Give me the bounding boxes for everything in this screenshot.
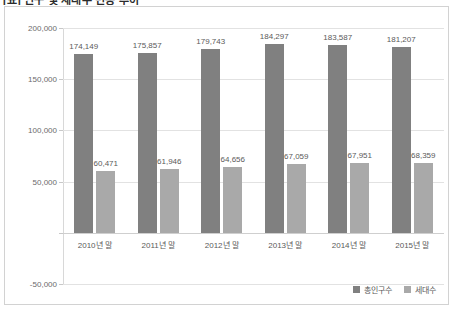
x-axis-label-2010년 말: 2010년 말 <box>78 239 112 250</box>
bar-value-label: 174,149 <box>69 42 98 51</box>
bar-value-label: 61,946 <box>157 157 181 166</box>
page-title: [표] 인구 및 세대수 변동 추이 <box>3 0 139 5</box>
bar-세대수-2014년 말[interactable] <box>350 163 369 233</box>
bar-총인구수-2012년 말[interactable] <box>201 49 220 233</box>
bar-value-label: 183,587 <box>323 33 352 42</box>
legend-item-총인구수[interactable]: 총인구수 <box>353 284 392 295</box>
y-axis-label: 200,000 <box>28 24 57 33</box>
bar-value-label: 67,059 <box>284 152 308 161</box>
x-axis-label-2011년 말: 2011년 말 <box>142 239 175 250</box>
bar-세대수-2011년 말[interactable] <box>160 169 179 232</box>
bar-value-label: 64,656 <box>221 155 245 164</box>
gridline-0 <box>63 233 444 234</box>
y-tick-0 <box>59 233 63 234</box>
y-axis-line <box>63 28 64 284</box>
bar-총인구수-2014년 말[interactable] <box>328 45 347 233</box>
legend-label: 세대수 <box>415 284 436 295</box>
chart-screenshot: [표] 인구 및 세대수 변동 추이 200,000150,000100,000… <box>0 0 453 313</box>
bar-세대수-2015년 말[interactable] <box>414 163 433 233</box>
bar-value-label: 67,951 <box>348 151 372 160</box>
x-axis-label-2013년 말: 2013년 말 <box>268 239 302 250</box>
y-axis-label: -50,000 <box>30 280 57 289</box>
y-tick-50000 <box>59 182 63 183</box>
y-axis-label: 100,000 <box>28 126 57 135</box>
legend-swatch-icon <box>353 286 360 293</box>
bar-총인구수-2015년 말[interactable] <box>392 47 411 233</box>
chart-legend: 총인구수세대수 <box>353 284 436 295</box>
bar-총인구수-2013년 말[interactable] <box>265 44 284 233</box>
y-tick--50000 <box>59 284 63 285</box>
bar-총인구수-2011년 말[interactable] <box>138 53 157 233</box>
gridline-200000 <box>63 28 444 29</box>
bar-value-label: 68,359 <box>411 151 435 160</box>
bar-value-label: 175,857 <box>133 41 162 50</box>
bar-value-label: 181,207 <box>387 35 416 44</box>
bar-총인구수-2010년 말[interactable] <box>74 54 93 232</box>
page-title-clipped: [표] 인구 및 세대수 변동 추이 <box>0 0 453 5</box>
gridline-50000 <box>63 182 444 183</box>
bar-value-label: 179,743 <box>196 37 225 46</box>
x-axis-label-2014년 말: 2014년 말 <box>332 239 366 250</box>
y-tick-100000 <box>59 130 63 131</box>
legend-item-세대수[interactable]: 세대수 <box>404 284 436 295</box>
y-tick-200000 <box>59 28 63 29</box>
x-axis-label-2015년 말: 2015년 말 <box>395 239 429 250</box>
y-axis-label: 150,000 <box>28 75 57 84</box>
gridline-150000 <box>63 79 444 80</box>
bar-세대수-2013년 말[interactable] <box>287 164 306 233</box>
y-axis-label: 50,000 <box>33 177 57 186</box>
bar-value-label: 60,471 <box>94 159 118 168</box>
bar-세대수-2010년 말[interactable] <box>96 171 115 233</box>
bar-세대수-2012년 말[interactable] <box>223 167 242 233</box>
bar-value-label: 184,297 <box>260 32 289 41</box>
legend-swatch-icon <box>404 286 411 293</box>
gridline-100000 <box>63 130 444 131</box>
x-axis-label-2012년 말: 2012년 말 <box>205 239 239 250</box>
plot-area: 200,000150,000100,00050,000-50,000 174,1… <box>63 28 444 284</box>
legend-label: 총인구수 <box>364 284 392 295</box>
chart-frame: 200,000150,000100,00050,000-50,000 174,1… <box>4 6 449 305</box>
y-tick-150000 <box>59 79 63 80</box>
